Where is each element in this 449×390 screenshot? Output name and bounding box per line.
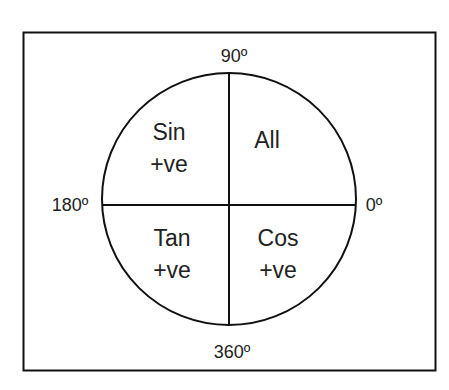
angle-label-360: 360º	[214, 342, 251, 362]
angle-label-0: 0º	[366, 195, 383, 215]
quadrant-sin-sign: +ve	[150, 151, 188, 177]
quadrant-all-func: All	[254, 127, 280, 153]
angle-label-90: 90º	[221, 46, 248, 66]
quadrant-cos-func: Cos	[258, 225, 299, 251]
quadrant-tan-sign: +ve	[153, 257, 191, 283]
cast-diagram: 90º 180º 0º 360º Sin +ve All Tan +ve Cos…	[0, 0, 449, 390]
angle-label-180: 180º	[52, 195, 89, 215]
quadrant-sin-func: Sin	[152, 119, 185, 145]
quadrant-tan-func: Tan	[153, 225, 190, 251]
quadrant-cos-sign: +ve	[259, 257, 297, 283]
